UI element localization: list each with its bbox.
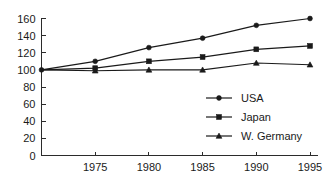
y-axis-tick-label: 140 (17, 30, 35, 42)
y-axis-tick-label: 40 (23, 115, 35, 127)
x-axis-tick-label: 1995 (298, 161, 322, 173)
y-axis-tick-label: 120 (17, 47, 35, 59)
legend-marker-circle-icon (217, 96, 222, 101)
data-point-marker (254, 47, 259, 52)
data-point-marker (254, 23, 259, 28)
series-line (42, 63, 311, 71)
data-point-marker (147, 59, 152, 64)
data-point-marker (308, 16, 313, 21)
y-axis-tick-label: 100 (17, 64, 35, 76)
legend-label: Japan (241, 111, 271, 123)
legend-label: W. Germany (241, 130, 303, 142)
series-w-germany (42, 60, 313, 73)
series-japan (42, 44, 313, 71)
y-axis-tick-label: 20 (23, 132, 35, 144)
y-axis-tick-label: 60 (23, 98, 35, 110)
data-point-marker (93, 59, 98, 64)
data-point-marker (147, 45, 152, 50)
legend-item-japan[interactable]: Japan (206, 111, 271, 123)
legend-marker-square-icon (217, 115, 222, 120)
legend-item-usa[interactable]: USA (206, 92, 264, 104)
chart-legend: USAJapanW. Germany (206, 92, 303, 142)
x-axis-tick-label: 1980 (137, 161, 161, 173)
data-point-marker (200, 55, 205, 60)
data-point-marker (308, 44, 313, 49)
series-line (42, 46, 311, 70)
y-axis-tick-label: 80 (23, 81, 35, 93)
x-axis-tick-label: 1990 (244, 161, 268, 173)
data-point-marker (200, 36, 205, 41)
y-axis-tick-labels: 020406080100120140160 (17, 13, 35, 162)
x-axis-tick-label: 1985 (190, 161, 214, 173)
legend-label: USA (241, 92, 264, 104)
data-series-group (39, 16, 313, 73)
series-line (42, 19, 311, 70)
line-chart: 020406080100120140160 197519801985199019… (0, 0, 324, 190)
legend-item-w-germany[interactable]: W. Germany (206, 130, 303, 142)
chart-canvas: 020406080100120140160 197519801985199019… (0, 0, 324, 190)
x-axis-tick-label: 1975 (83, 161, 107, 173)
y-axis-tick-label: 0 (29, 150, 35, 162)
x-axis-tick-labels: 19751980198519901995 (83, 161, 322, 173)
y-axis-tick-label: 160 (17, 13, 35, 25)
